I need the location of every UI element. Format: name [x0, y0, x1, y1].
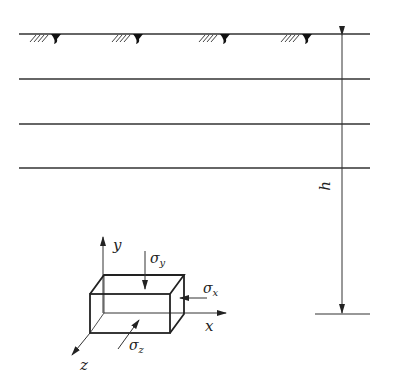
sigma-x-label: σx [203, 280, 219, 298]
ground-symbol-icon [112, 34, 143, 44]
depth-label-h: h [316, 181, 334, 191]
box-hidden-edge-diagonal [90, 313, 104, 333]
sigma-y-label: σy [150, 250, 166, 268]
axis-label-x: x [205, 317, 214, 335]
axes [72, 237, 226, 355]
z-axis-arrow [72, 333, 90, 355]
depth-dimension [315, 35, 370, 314]
axis-label-z: z [79, 356, 88, 374]
soil-element-box [90, 275, 184, 333]
axis-label-y: y [112, 236, 122, 254]
layer-lines [19, 34, 370, 168]
ground-symbols [30, 34, 312, 44]
sigma-z-label: σz [129, 337, 145, 355]
soil-stress-diagram: h y x z σy σx σz [0, 0, 400, 388]
ground-symbol-icon [281, 34, 312, 44]
ground-symbol-icon [30, 34, 61, 44]
ground-symbol-icon [199, 34, 230, 44]
